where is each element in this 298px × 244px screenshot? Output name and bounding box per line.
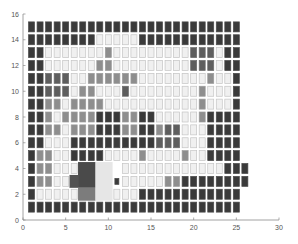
y-tick-label: 6 — [15, 139, 19, 146]
heatmap-cell — [225, 164, 231, 174]
heatmap-cell — [131, 138, 137, 148]
dark-block — [78, 162, 95, 188]
heatmap-cell — [71, 48, 77, 58]
heatmap-cell — [139, 22, 145, 32]
heatmap-cell — [105, 125, 111, 135]
heatmap-cell — [165, 35, 171, 45]
heatmap-cell — [199, 202, 205, 212]
heatmap-cell — [71, 202, 77, 212]
heatmap-cell — [208, 22, 214, 32]
heatmap-cell — [157, 189, 163, 199]
heatmap-cell — [139, 176, 145, 186]
heatmap-cell — [97, 99, 103, 109]
heatmap-cell — [216, 61, 222, 71]
heatmap-cell — [71, 35, 77, 45]
heatmap-cell — [46, 35, 52, 45]
heatmap-cell — [139, 48, 145, 58]
heatmap-cell — [63, 189, 69, 199]
heatmap-cell — [88, 125, 94, 135]
heatmap-cell — [122, 48, 128, 58]
heatmap-cell — [29, 22, 35, 32]
y-tick-label: 16 — [11, 11, 19, 18]
heatmap-cell — [148, 151, 154, 161]
heatmap-cell — [139, 138, 145, 148]
heatmap-cell — [131, 125, 137, 135]
light-block — [96, 162, 113, 201]
heatmap-cell — [242, 164, 248, 174]
heatmap-cell — [208, 176, 214, 186]
x-tick-label: 15 — [147, 224, 155, 231]
heatmap-cell — [71, 151, 77, 161]
heatmap-cell — [122, 189, 128, 199]
heatmap-cell — [97, 202, 103, 212]
heatmap-cell — [97, 86, 103, 96]
heatmap-cell — [63, 86, 69, 96]
heatmap-cell — [191, 151, 197, 161]
heatmap-cell — [199, 61, 205, 71]
heatmap-cell — [225, 86, 231, 96]
heatmap-cell — [80, 125, 86, 135]
x-tick-label: 10 — [104, 224, 112, 231]
heatmap-cell — [191, 125, 197, 135]
heatmap-cell — [54, 164, 60, 174]
heatmap-cell — [199, 164, 205, 174]
heatmap-cell — [63, 48, 69, 58]
heatmap-cell — [148, 99, 154, 109]
heatmap-cell — [139, 112, 145, 122]
heatmap-cell — [148, 35, 154, 45]
heatmap-cell — [148, 86, 154, 96]
y-tick-label: 10 — [11, 88, 19, 95]
heatmap-cell — [225, 138, 231, 148]
heatmap-cell — [208, 112, 214, 122]
heatmap-cell — [80, 112, 86, 122]
heatmap-cell — [242, 176, 248, 186]
cells-layer — [29, 22, 248, 212]
heatmap-cell — [139, 189, 145, 199]
heatmap-cell — [105, 202, 111, 212]
heatmap-cell — [174, 138, 180, 148]
x-tick-label: 30 — [275, 224, 283, 231]
heatmap-cell — [37, 189, 43, 199]
heatmap-cell — [88, 61, 94, 71]
heatmap-cell — [216, 112, 222, 122]
heatmap-cell — [97, 125, 103, 135]
heatmap-cell — [71, 99, 77, 109]
y-tick-label: 4 — [15, 165, 19, 172]
axes: 0510152025300246810121416 — [11, 11, 283, 232]
heatmap-cell — [46, 125, 52, 135]
heatmap-cell — [105, 151, 111, 161]
heatmap-cell — [233, 176, 239, 186]
heatmap-cell — [37, 125, 43, 135]
heatmap-cell — [131, 99, 137, 109]
heatmap-cell — [174, 35, 180, 45]
heatmap-cell — [131, 61, 137, 71]
heatmap-cell — [37, 164, 43, 174]
heatmap-cell — [131, 73, 137, 83]
heatmap-cell — [71, 73, 77, 83]
heatmap-cell — [191, 73, 197, 83]
heatmap-cell — [165, 112, 171, 122]
heatmap-cell — [105, 48, 111, 58]
heatmap-cell — [46, 164, 52, 174]
heatmap-cell — [165, 138, 171, 148]
heatmap-cell — [208, 61, 214, 71]
heatmap-cell — [46, 86, 52, 96]
heatmap-cell — [182, 202, 188, 212]
heatmap-cell — [114, 138, 120, 148]
y-tick-label: 0 — [15, 217, 19, 224]
heatmap-cell — [216, 73, 222, 83]
heatmap-cell — [97, 73, 103, 83]
heatmap-cell — [37, 138, 43, 148]
heatmap-cell — [29, 164, 35, 174]
heatmap-cell — [157, 73, 163, 83]
heatmap-cell — [174, 112, 180, 122]
heatmap-cell — [114, 48, 120, 58]
heatmap-cell — [165, 73, 171, 83]
heatmap-cell — [46, 73, 52, 83]
heatmap-cell — [131, 151, 137, 161]
heatmap-cell — [148, 202, 154, 212]
heatmap-cell — [199, 99, 205, 109]
heatmap-cell — [157, 48, 163, 58]
heatmap-cell — [165, 189, 171, 199]
heatmap-cell — [105, 86, 111, 96]
